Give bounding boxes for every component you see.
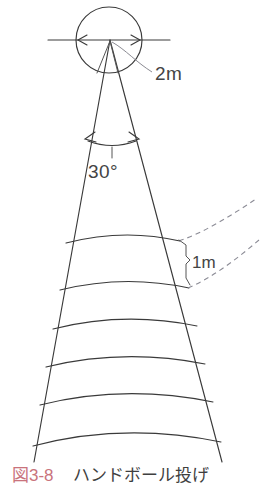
figure-caption: 図3-8 ハンドボール投げ — [0, 467, 261, 485]
apex-guide-right — [110, 41, 118, 73]
handball-throw-diagram: 2m 30° 1m — [0, 0, 261, 485]
label-30-degrees: 30° — [88, 161, 118, 182]
label-2m: 2m — [155, 63, 182, 84]
figure-container: 2m 30° 1m 図3-8 ハンドボール投げ — [0, 0, 261, 485]
caption-title: ハンドボール投げ — [73, 467, 209, 484]
leader-2m — [112, 42, 152, 72]
apex-guide-left — [97, 41, 110, 73]
label-1m: 1m — [192, 253, 216, 272]
measure-arc-6 — [33, 433, 221, 446]
dashed-guide-upper — [179, 199, 256, 241]
measure-arc-4 — [46, 357, 205, 367]
measure-arc-3 — [53, 319, 197, 329]
angle-arrow-right-icon — [128, 132, 139, 142]
caption-number: 図3-8 — [12, 467, 54, 484]
angle-arrow-left-icon — [85, 132, 96, 142]
sector-right-edge — [110, 40, 222, 462]
measure-arc-5 — [40, 394, 213, 405]
measure-arc-2 — [60, 281, 189, 290]
bracket-1m — [179, 240, 190, 285]
